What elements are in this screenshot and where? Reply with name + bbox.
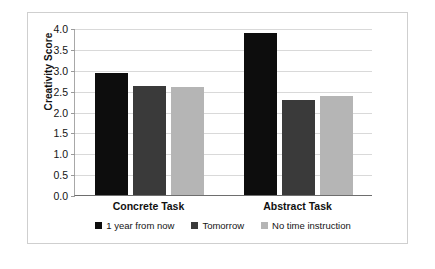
legend-swatch — [191, 222, 198, 229]
y-axis-tick-labels: 4.03.53.02.52.01.51.00.50.0 — [34, 29, 68, 196]
legend-swatch — [95, 222, 102, 229]
legend-label: No time instruction — [272, 220, 351, 231]
plot-area — [74, 29, 372, 196]
y-axis-tick-label: 3.5 — [53, 45, 68, 56]
chart-figure: Creativity Score 4.03.53.02.52.01.51.00.… — [0, 0, 435, 269]
y-axis-tick — [71, 71, 75, 72]
gridline — [75, 29, 372, 30]
gridline — [75, 50, 372, 51]
bar — [320, 96, 353, 195]
y-axis-tick-label: 0.5 — [53, 170, 68, 181]
y-axis-tick-label: 2.0 — [53, 108, 68, 119]
legend-swatch — [261, 222, 268, 229]
y-axis-tick-label: 0.0 — [53, 191, 68, 202]
y-axis-tick-label: 3.0 — [53, 66, 68, 77]
gridline — [75, 71, 372, 72]
y-axis-tick-label: 1.5 — [53, 128, 68, 139]
y-axis-tick — [71, 92, 75, 93]
bar — [171, 87, 204, 195]
bar — [133, 86, 166, 195]
y-axis-tick — [71, 133, 75, 134]
legend-label: Tomorrow — [202, 220, 244, 231]
y-axis-tick — [71, 196, 75, 197]
chart-legend: 1 year from nowTomorrowNo time instructi… — [74, 220, 372, 231]
y-axis-tick — [71, 154, 75, 155]
y-axis-tick-label: 1.0 — [53, 149, 68, 160]
legend-label: 1 year from now — [106, 220, 174, 231]
y-axis-tick — [71, 50, 75, 51]
y-axis-tick — [71, 113, 75, 114]
y-axis-tick-label: 4.0 — [53, 24, 68, 35]
x-axis-category-label: Concrete Task — [89, 200, 209, 212]
bar — [95, 73, 128, 195]
legend-entry: Tomorrow — [191, 220, 244, 231]
y-axis-tick — [71, 29, 75, 30]
x-axis-category-label: Abstract Task — [238, 200, 358, 212]
legend-entry: No time instruction — [261, 220, 351, 231]
legend-entry: 1 year from now — [95, 220, 174, 231]
y-axis-tick-label: 2.5 — [53, 87, 68, 98]
y-axis-tick — [71, 175, 75, 176]
bar — [282, 100, 315, 195]
bar — [244, 33, 277, 195]
